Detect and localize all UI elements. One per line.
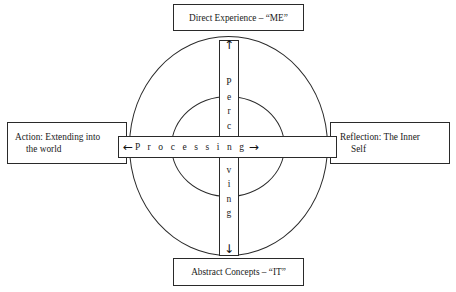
vertical-letter: e	[226, 90, 231, 105]
horizontal-axis-bar: ← P r o c e s s i n g →	[118, 136, 337, 158]
vertical-letter: c	[226, 119, 231, 134]
label-box-left-text: Action: Extending into the world	[8, 131, 100, 155]
vertical-letter: i	[226, 177, 231, 192]
label-box-bottom-text: Abstract Concepts – “IT”	[191, 266, 286, 278]
horizontal-axis-label: P r o c e s s i n g	[133, 142, 249, 152]
vertical-letter: P	[226, 75, 231, 90]
label-box-top-text: Direct Experience – “ME”	[189, 12, 288, 24]
arrow-up-icon: ↑	[224, 41, 234, 51]
label-box-reflection: Reflection: The Inner Self	[330, 122, 450, 164]
arrow-left-icon: ←	[123, 141, 133, 153]
label-box-left-line1: Action: Extending into	[15, 132, 100, 142]
vertical-letter: g	[226, 206, 231, 221]
label-box-left-line2: the world	[15, 143, 100, 155]
label-box-right-text: Reflection: The Inner Self	[331, 131, 420, 155]
label-box-right-line1: Reflection: The Inner	[340, 132, 420, 142]
label-box-direct-experience: Direct Experience – “ME”	[173, 4, 304, 31]
label-box-right-line2: Self	[340, 143, 420, 155]
vertical-letter: n	[226, 192, 231, 207]
label-box-action: Action: Extending into the world	[7, 122, 127, 164]
label-box-abstract-concepts: Abstract Concepts – “IT”	[173, 258, 304, 286]
vertical-letter: r	[226, 104, 231, 119]
arrow-right-icon: →	[249, 141, 259, 153]
diagram-canvas: ↑ P e r c e i v i n g ↓ ← P r o c e s s …	[0, 0, 456, 292]
vertical-letter: v	[226, 163, 231, 178]
arrow-down-icon: ↓	[224, 245, 234, 255]
